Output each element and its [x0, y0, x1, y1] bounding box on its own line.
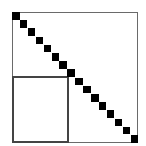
diagonal-cell: [67, 69, 75, 77]
diagonal-cell: [75, 78, 83, 86]
diagonal-cell: [52, 53, 60, 61]
diagonal-cell: [44, 45, 52, 53]
diagonal-cell: [20, 20, 28, 28]
diagonal-cell: [91, 94, 99, 102]
diagonal-cell: [99, 102, 107, 110]
diagonal-cell: [28, 28, 36, 36]
diagonal-cell: [12, 12, 20, 20]
diagonal-cell: [59, 61, 67, 69]
diagonal-cell: [123, 127, 131, 135]
sparsity-diagram: [0, 0, 146, 146]
diagonal-cell: [115, 119, 123, 127]
diagonal-cell: [131, 135, 139, 143]
diagonal-cell: [107, 110, 115, 118]
lower-left-block: [12, 76, 69, 143]
diagonal-cell: [36, 37, 44, 45]
diagonal-cell: [83, 86, 91, 94]
